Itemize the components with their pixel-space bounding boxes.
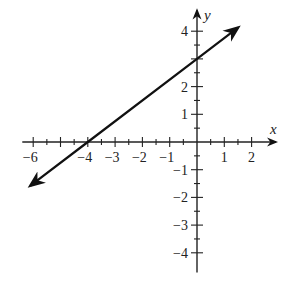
x-tick-label: −6: [23, 150, 38, 165]
y-tick-label: −3: [173, 218, 188, 233]
x-tick-label: −1: [159, 150, 174, 165]
y-tick-label: 4: [181, 24, 188, 39]
y-tick-label: −4: [173, 246, 188, 261]
x-tick-label: 1: [221, 150, 228, 165]
y-axis-label: y: [202, 7, 211, 23]
x-tick-label: 2: [248, 150, 255, 165]
x-tick-label: −3: [105, 150, 120, 165]
y-tick-label: 2: [181, 80, 188, 95]
y-tick-label: −1: [173, 163, 188, 178]
coordinate-plane: −6−4−3−2−112−4−3−2−1124xy: [0, 0, 287, 291]
y-tick-label: −2: [173, 190, 188, 205]
x-axis-label: x: [269, 121, 277, 137]
y-tick-label: 1: [181, 107, 188, 122]
x-tick-label: −2: [132, 150, 147, 165]
tick-labels: −6−4−3−2−112−4−3−2−1124xy: [23, 7, 277, 261]
x-tick-label: −4: [77, 150, 92, 165]
